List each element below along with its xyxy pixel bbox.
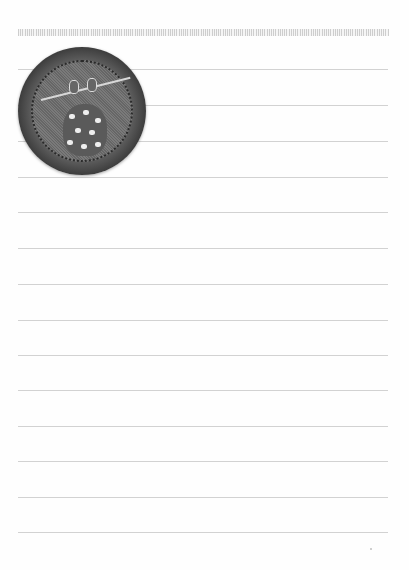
ruled-line — [18, 212, 388, 213]
patch-fabric — [31, 60, 133, 162]
ruled-line — [18, 284, 388, 285]
polka-dot-bag-icon — [63, 104, 107, 156]
ruled-line — [18, 497, 388, 498]
ruled-line — [18, 461, 388, 462]
perforation-edge — [18, 29, 389, 36]
notebook-page — [0, 0, 409, 570]
ruled-line — [18, 355, 388, 356]
bag-knot-icon — [87, 78, 97, 92]
bag-knot-icon — [69, 80, 79, 94]
bindle-patch-icon — [18, 47, 146, 175]
ruled-line — [18, 248, 388, 249]
ruled-line — [18, 320, 388, 321]
stick-icon — [41, 77, 131, 101]
ruled-line — [18, 532, 388, 533]
ruled-line — [18, 177, 388, 178]
ruled-line — [18, 390, 388, 391]
ruled-line — [18, 426, 388, 427]
paper-speck — [370, 548, 372, 550]
